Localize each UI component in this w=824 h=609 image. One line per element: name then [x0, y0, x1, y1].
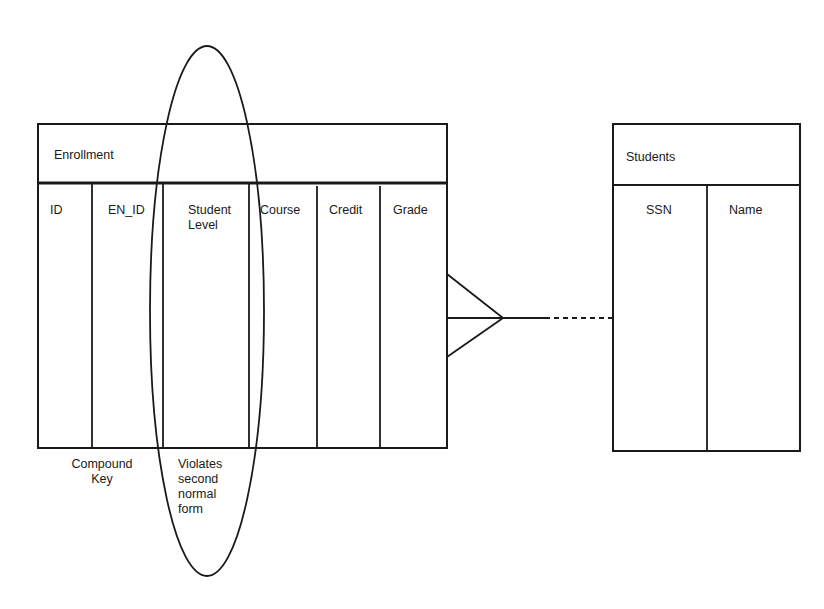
relationship-connector	[447, 274, 612, 357]
enrollment-column-en-id: EN_ID	[108, 203, 145, 218]
enrollment-column-grade: Grade	[393, 203, 428, 218]
violation-annotation: Violates second normal form	[178, 457, 222, 517]
er-diagram	[0, 0, 824, 609]
students-entity	[613, 124, 800, 451]
enrollment-box	[38, 124, 447, 448]
crows-foot-upper	[447, 274, 503, 318]
crows-foot-lower	[447, 318, 503, 357]
enrollment-entity	[38, 124, 447, 448]
students-column-ssn: SSN	[646, 203, 672, 218]
students-column-name: Name	[729, 203, 762, 218]
compound-key-annotation: Compound Key	[62, 457, 142, 487]
students-title: Students	[626, 150, 675, 165]
enrollment-column-id: ID	[50, 203, 63, 218]
enrollment-title: Enrollment	[54, 148, 114, 163]
enrollment-column-course: Course	[260, 203, 300, 218]
enrollment-column-student-level: Student Level	[188, 203, 231, 233]
enrollment-column-credit: Credit	[329, 203, 362, 218]
